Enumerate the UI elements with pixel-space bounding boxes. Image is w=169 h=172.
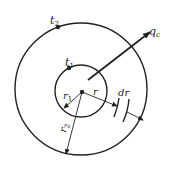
heat-flux-arrow <box>88 32 150 80</box>
r-line <box>82 92 117 106</box>
r2-label: r2 <box>57 122 72 134</box>
dr-arc-outer <box>123 99 129 122</box>
dr-arc-inner <box>114 98 119 117</box>
dr-label: dr <box>118 87 130 98</box>
cylinder-conduction-diagram: t2 t1 qc r1 r dr r2 <box>0 0 169 172</box>
r2-label-group: r2 <box>57 122 72 134</box>
t2-label: t2 <box>50 14 59 28</box>
r-label: r <box>93 86 99 97</box>
r1-label: r1 <box>63 90 72 103</box>
t1-label: t1 <box>65 56 74 70</box>
heat-flux-label: qc <box>149 25 160 39</box>
